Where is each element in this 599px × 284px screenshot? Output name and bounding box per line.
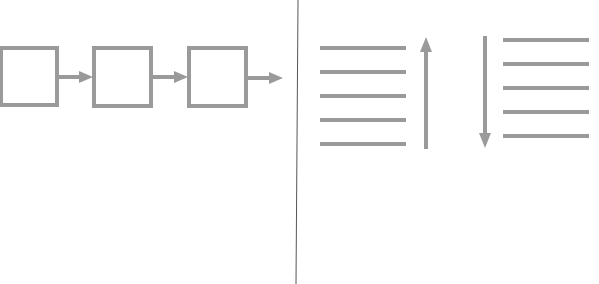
line-stack-with-up-arrow — [320, 37, 432, 149]
panel-divider — [296, 0, 298, 284]
right-arrow-icon — [57, 71, 93, 83]
down-arrow-icon — [479, 36, 491, 148]
process-box-1 — [1, 48, 57, 105]
diagram-canvas — [0, 0, 599, 284]
right-arrow-icon — [151, 71, 188, 83]
process-box-2 — [94, 48, 151, 106]
box-chain — [1, 48, 283, 106]
process-box-3 — [189, 48, 246, 106]
up-arrow-icon — [420, 37, 432, 149]
right-arrow-icon — [246, 72, 283, 84]
line-stack-with-down-arrow — [479, 36, 589, 148]
